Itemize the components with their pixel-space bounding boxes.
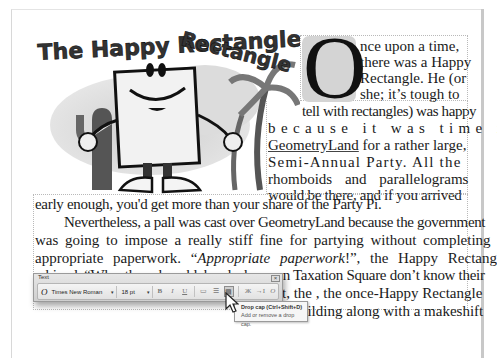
toolbar-separator [194, 286, 195, 297]
text-line: appropriate paperwork. “Appropriate pape… [35, 249, 466, 267]
text-line: e building along with a makeshift [282, 302, 483, 320]
toolbar-close-button[interactable]: × [271, 275, 280, 282]
bullets-button[interactable]: ☰ [211, 286, 221, 297]
underline-button[interactable]: U [179, 286, 189, 297]
drop-cap-tooltip: Drop cap (Ctrl+Shift+D) Add or remove a … [234, 301, 308, 322]
symbol-button[interactable]: Ж [243, 286, 253, 297]
font-size-value: 18 pt [122, 289, 147, 295]
font-size-dropdown[interactable]: 18 pt ▾ [119, 286, 153, 298]
text-line: was going to impose a really stiff fine … [35, 231, 497, 249]
geometryland-link[interactable]: GeometryLand [268, 137, 359, 153]
tooltip-description: Add or remove a drop cap. [241, 311, 305, 329]
text-line: t, the , the once-Happy Rectangle [282, 284, 482, 302]
chevron-down-icon: ▾ [147, 289, 150, 295]
font-type-icon: O [41, 287, 48, 297]
text-line: early enough, you'd get more than your s… [35, 195, 381, 213]
text-line: because it was time in [268, 119, 466, 137]
font-name-dropdown[interactable]: O Times New Roman ▾ [41, 286, 117, 298]
toolbar-row: O Times New Roman ▾ 18 pt ▾ B I U ▭ ☰ ▤ … [37, 283, 279, 300]
bold-button[interactable]: B [155, 286, 165, 297]
font-name-value: Times New Roman [52, 289, 111, 295]
text-line: Nevertheless, a pall was cast over Geome… [64, 213, 485, 231]
text-line: GeometryLand for a rather large, [268, 136, 466, 154]
italic-button[interactable]: I [167, 286, 177, 297]
tooltip-title: Drop cap (Ctrl+Shift+D) [241, 303, 305, 311]
chevron-down-icon: ▾ [111, 289, 114, 295]
toolbar-title: Text [38, 274, 49, 280]
drop-cap-letter[interactable]: O [303, 24, 355, 112]
mouse-pointer-icon [225, 292, 239, 314]
font-color-button[interactable]: O [268, 286, 278, 297]
happy-rectangle-illustration: The Happy Rectangle Rectangle [30, 30, 300, 195]
highlight-button[interactable]: ▭ [199, 286, 209, 297]
indent-button[interactable]: →I [255, 286, 265, 297]
text-line: Semi-Annual Party. All the [268, 153, 466, 171]
text-toolbar[interactable]: Text × O Times New Roman ▾ 18 pt ▾ B I U… [33, 273, 283, 302]
